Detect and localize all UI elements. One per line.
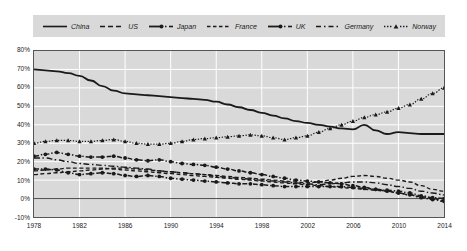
y-axis-tick-70: 70% bbox=[4, 65, 30, 72]
y-axis-tick-80: 80% bbox=[4, 47, 30, 54]
data-point bbox=[351, 186, 355, 190]
y-axis-tick-20: 20% bbox=[4, 159, 30, 166]
data-point bbox=[89, 172, 93, 176]
data-point bbox=[89, 139, 93, 143]
data-point bbox=[192, 178, 196, 182]
data-point bbox=[385, 189, 389, 193]
data-point bbox=[305, 179, 309, 183]
data-point bbox=[260, 183, 264, 187]
data-point bbox=[146, 142, 150, 146]
data-point bbox=[55, 151, 59, 155]
x-axis-tick-1990: 1990 bbox=[154, 223, 188, 230]
data-point bbox=[180, 162, 184, 166]
data-point bbox=[283, 185, 287, 189]
data-point bbox=[351, 119, 355, 123]
series-japan bbox=[34, 151, 444, 201]
legend-swatch-us-icon bbox=[99, 22, 125, 31]
data-point bbox=[431, 198, 435, 202]
data-point bbox=[100, 155, 104, 159]
data-point bbox=[157, 175, 161, 179]
x-axis-tick-2014: 2014 bbox=[428, 223, 462, 230]
data-point bbox=[271, 184, 275, 188]
legend-item-uk[interactable]: UK bbox=[267, 22, 306, 31]
legend-label-france: France bbox=[235, 23, 257, 30]
data-point bbox=[214, 136, 218, 140]
data-point bbox=[408, 193, 412, 197]
legend-item-france[interactable]: France bbox=[206, 22, 257, 31]
x-axis-tick-2006: 2006 bbox=[336, 223, 370, 230]
data-point bbox=[112, 154, 116, 158]
y-axis-tick-40: 40% bbox=[4, 121, 30, 128]
data-point bbox=[237, 169, 241, 173]
legend-label-norway: Norway bbox=[412, 23, 436, 30]
data-point bbox=[226, 181, 230, 185]
x-axis-tick-1982: 1982 bbox=[63, 223, 97, 230]
data-point bbox=[89, 155, 93, 159]
series-germany bbox=[34, 158, 444, 195]
data-point bbox=[146, 174, 150, 178]
legend-swatch-uk-icon bbox=[267, 22, 293, 31]
y-axis-tick-50: 50% bbox=[4, 103, 30, 110]
data-point bbox=[78, 154, 82, 158]
data-point bbox=[203, 179, 207, 183]
data-point bbox=[180, 177, 184, 181]
legend-swatch-norway-icon bbox=[383, 22, 409, 31]
data-point bbox=[419, 196, 423, 200]
legend-item-japan[interactable]: Japan bbox=[148, 22, 196, 31]
legend-swatch-china-icon bbox=[42, 22, 68, 31]
data-point bbox=[248, 182, 252, 186]
data-point bbox=[271, 136, 275, 140]
data-point bbox=[419, 97, 423, 101]
data-point bbox=[374, 187, 378, 191]
legend-item-germany[interactable]: Germany bbox=[315, 22, 373, 31]
legend-swatch-germany-icon bbox=[315, 22, 341, 31]
data-point bbox=[248, 171, 252, 175]
data-point bbox=[340, 185, 344, 189]
y-axis-tick-30: 30% bbox=[4, 140, 30, 147]
data-point bbox=[214, 165, 218, 169]
y-axis-tick-0: 0% bbox=[4, 196, 30, 203]
data-point bbox=[317, 180, 321, 184]
data-point bbox=[294, 178, 298, 182]
data-point bbox=[66, 171, 70, 175]
data-point bbox=[169, 176, 173, 180]
data-point bbox=[203, 137, 207, 141]
legend-label-uk: UK bbox=[296, 23, 306, 30]
data-point bbox=[397, 191, 401, 195]
data-point bbox=[135, 158, 139, 162]
data-point bbox=[55, 168, 59, 172]
data-point bbox=[408, 102, 412, 106]
data-point bbox=[362, 115, 366, 119]
data-point bbox=[237, 182, 241, 186]
legend-swatch-japan-icon bbox=[148, 22, 174, 31]
chart-legend: China US Japan France bbox=[33, 15, 445, 37]
x-axis-tick-2002: 2002 bbox=[291, 223, 325, 230]
data-point bbox=[362, 187, 366, 191]
chart-lines bbox=[34, 51, 444, 217]
data-point bbox=[123, 156, 127, 160]
data-point bbox=[305, 185, 309, 189]
legend-item-us[interactable]: US bbox=[99, 22, 138, 31]
series-norway bbox=[34, 86, 444, 146]
data-point bbox=[294, 185, 298, 189]
data-point bbox=[203, 163, 207, 167]
data-point bbox=[157, 158, 161, 162]
data-point bbox=[112, 172, 116, 176]
data-point bbox=[374, 113, 378, 117]
data-point bbox=[43, 152, 47, 156]
data-point bbox=[66, 152, 70, 156]
legend-label-china: China bbox=[71, 23, 89, 30]
legend-label-us: US bbox=[128, 23, 138, 30]
data-point bbox=[192, 163, 196, 167]
legend-item-norway[interactable]: Norway bbox=[383, 22, 436, 31]
legend-item-china[interactable]: China bbox=[42, 22, 89, 31]
data-point bbox=[77, 139, 81, 143]
data-point bbox=[135, 175, 139, 179]
data-point bbox=[78, 173, 82, 177]
data-point bbox=[169, 160, 173, 164]
y-axis-tick-60: 60% bbox=[4, 84, 30, 91]
legend-label-germany: Germany bbox=[344, 23, 373, 30]
data-point bbox=[260, 173, 264, 177]
chart-figure: China US Japan France bbox=[0, 0, 467, 251]
y-axis-tick-10: 10% bbox=[4, 177, 30, 184]
